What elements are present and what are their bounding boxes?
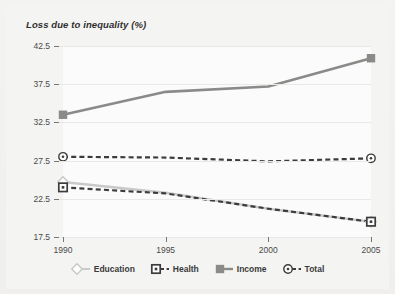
diamond-outline-icon	[71, 263, 91, 275]
y-axis-tick-label: 37.5	[20, 79, 50, 89]
data-point-marker	[72, 264, 82, 274]
circle-dot-icon	[282, 263, 302, 275]
gridline	[59, 46, 371, 47]
data-point-marker	[152, 265, 160, 273]
series-line-health	[63, 187, 371, 221]
y-axis-tick-label: 17.5	[20, 232, 50, 242]
gridline	[59, 199, 371, 200]
legend-label: Health	[173, 264, 199, 274]
legend-label: Income	[237, 264, 267, 274]
data-point-marker	[216, 265, 224, 273]
gridline	[59, 84, 371, 85]
gridline	[59, 237, 371, 238]
gridline	[59, 161, 371, 162]
chart-inner-panel: Loss due to inequality (%) 42.537.532.52…	[6, 5, 389, 289]
y-axis-tick-label: 42.5	[20, 41, 50, 51]
x-axis-tick-label: 2000	[248, 245, 288, 255]
circle-dot-icon	[282, 263, 302, 275]
square-dot-icon	[150, 263, 170, 275]
chart-title: Loss due to inequality (%)	[26, 19, 146, 30]
data-point-marker	[283, 265, 291, 273]
legend-item-income[interactable]: Income	[214, 263, 267, 275]
chart-legend: EducationHealthIncomeTotal	[6, 263, 389, 275]
data-point-marker	[59, 111, 67, 119]
legend-item-health[interactable]: Health	[150, 263, 199, 275]
square-dot-icon	[150, 263, 170, 275]
square-filled-icon	[214, 263, 234, 275]
legend-label: Education	[94, 264, 135, 274]
x-axis-tick-mark	[166, 237, 167, 242]
plot-area	[63, 46, 371, 237]
y-axis-tick-label: 32.5	[20, 117, 50, 127]
data-point-marker	[367, 54, 375, 62]
data-point-marker	[367, 218, 375, 226]
x-axis-tick-label: 1995	[146, 245, 186, 255]
x-axis-tick-label: 1990	[43, 245, 83, 255]
legend-item-education[interactable]: Education	[71, 263, 135, 275]
square-filled-icon	[214, 263, 234, 275]
chart-figure: Loss due to inequality (%) 42.537.532.52…	[0, 0, 395, 294]
diamond-outline-icon	[71, 263, 91, 275]
x-axis-tick-label: 2005	[351, 245, 391, 255]
series-layer	[63, 46, 371, 237]
data-point-marker	[59, 183, 67, 191]
legend-label: Total	[305, 264, 325, 274]
x-axis-tick-mark	[371, 237, 372, 242]
legend-item-total[interactable]: Total	[282, 263, 325, 275]
x-axis-tick-mark	[268, 237, 269, 242]
y-axis-tick-label: 22.5	[20, 194, 50, 204]
x-axis-tick-mark	[63, 237, 64, 242]
y-axis-tick-label: 27.5	[20, 156, 50, 166]
gridline	[59, 122, 371, 123]
series-line-income	[63, 58, 371, 115]
